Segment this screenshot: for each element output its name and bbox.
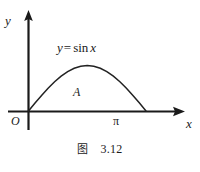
x-tick-label-pi: π xyxy=(113,115,119,127)
x-axis xyxy=(8,107,185,116)
figure-container: y x O π A y=sinx 图3.12 xyxy=(0,0,200,172)
equation-lhs: y xyxy=(57,40,63,55)
equation-function: sin xyxy=(72,40,88,55)
equation-operator: = xyxy=(63,40,72,55)
y-axis-label: y xyxy=(5,14,11,27)
figure-caption: 图3.12 xyxy=(0,140,200,157)
x-axis-label: x xyxy=(186,117,192,130)
origin-label: O xyxy=(11,115,20,127)
equation-annotation: y=sinx xyxy=(57,41,96,54)
equation-argument: x xyxy=(88,40,96,55)
region-label-a: A xyxy=(73,86,80,98)
caption-number: 3.12 xyxy=(88,142,122,156)
sine-curve xyxy=(29,66,147,112)
caption-word: 图 xyxy=(77,143,88,156)
sine-curve-path xyxy=(29,66,147,112)
